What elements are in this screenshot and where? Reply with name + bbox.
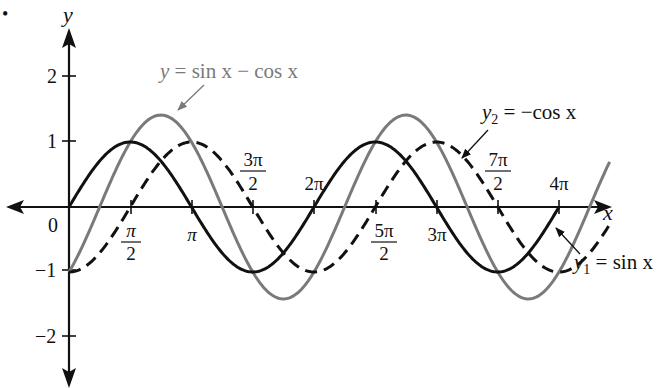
xtick-3pi-over-2: 3π 2 bbox=[240, 149, 266, 194]
ytick-label-minus-2: −2 bbox=[35, 325, 56, 347]
svg-text:7π: 7π bbox=[488, 149, 508, 170]
xtick-pi: π bbox=[187, 224, 197, 245]
svg-text:y2 = −cos x: y2 = −cos x bbox=[480, 100, 577, 127]
svg-text:π: π bbox=[126, 220, 136, 241]
xtick-2pi: 2π bbox=[304, 173, 324, 194]
xtick-pi-over-2: π 2 bbox=[121, 220, 141, 264]
origin-label: 0 bbox=[48, 214, 58, 236]
svg-text:2: 2 bbox=[379, 243, 389, 264]
axes bbox=[6, 28, 612, 388]
svg-text:5π: 5π bbox=[374, 220, 394, 241]
annotation-arrow-icon bbox=[462, 130, 488, 158]
ytick-label-1: 1 bbox=[47, 130, 57, 152]
xtick-4pi: 4π bbox=[549, 173, 569, 194]
svg-text:y1 = sin x: y1 = sin x bbox=[572, 250, 653, 277]
xtick-5pi-over-2: 5π 2 bbox=[371, 220, 397, 264]
ytick-label-minus-1: −1 bbox=[35, 259, 56, 281]
annotation-arrow-icon bbox=[178, 85, 204, 110]
ytick-label-2: 2 bbox=[47, 65, 57, 87]
annotation-neg-cos: y2 = −cos x bbox=[462, 100, 577, 158]
svg-text:2: 2 bbox=[493, 173, 503, 194]
annotation-sin-minus-cos: y = sin x − cos x bbox=[158, 59, 299, 110]
svg-text:2: 2 bbox=[126, 243, 136, 264]
y-axis-label: y bbox=[61, 2, 73, 27]
x-axis-label: x bbox=[602, 200, 613, 225]
svg-text:2: 2 bbox=[248, 173, 258, 194]
xtick-3pi: 3π bbox=[427, 224, 447, 245]
xtick-7pi-over-2: 7π 2 bbox=[485, 149, 511, 194]
svg-text:3π: 3π bbox=[243, 149, 263, 170]
trig-function-chart: • y x 0 2 1 −1 −2 π 2 π 3π bbox=[0, 0, 665, 388]
item-bullet: • bbox=[2, 4, 8, 24]
svg-text:y = sin x − cos x: y = sin x − cos x bbox=[158, 59, 299, 83]
